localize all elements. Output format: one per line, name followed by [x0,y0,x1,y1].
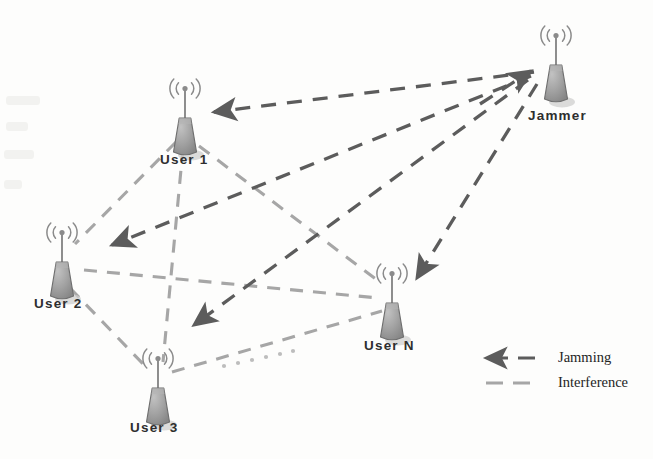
node-label-jammer: Jammer [528,108,587,123]
interference-link-user1-user3 [163,148,183,362]
interference-link-user2-userN [84,270,378,298]
node-jammer[interactable] [541,26,575,107]
legend-label-jamming: Jamming [558,349,611,366]
node-userN[interactable] [377,264,411,345]
interference-link-user1-userN [199,146,381,283]
node-label-user2: User 2 [34,296,82,311]
jamming-link-jammer-user1 [214,72,534,112]
ellipsis-dots [222,349,295,368]
node-label-user3: User 3 [130,420,178,435]
jamming-link-group [112,71,537,325]
node-label-userN: User N [364,338,415,353]
figure-canvas: User 1 User 2 User 3 User N Jammer Jammi… [0,0,653,459]
diagram-svg [0,0,653,459]
node-label-user1: User 1 [160,152,208,167]
jamming-link-jammer-userN [417,84,537,278]
legend-label-interference: Interference [558,374,628,391]
node-user1[interactable] [170,79,204,160]
interference-link-user3-userN [172,311,382,372]
node-user3[interactable] [143,349,177,430]
jamming-link-jammer-user3 [194,80,528,325]
interference-link-group [70,142,382,372]
